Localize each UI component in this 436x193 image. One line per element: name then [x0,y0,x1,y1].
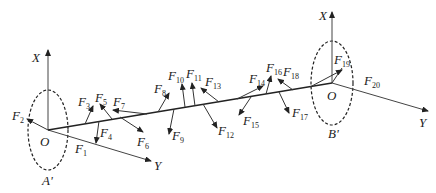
force-arrow-f17 [279,92,289,113]
force-arrow-f10 [182,84,185,107]
force-label-f5: F5 [94,90,107,107]
force-label-f2: F2 [11,108,24,125]
force-label-f15: F15 [242,113,259,130]
force-arrow-f7 [113,110,147,114]
left-y-axis-label: Y [154,158,163,173]
force-arrow-f16 [266,76,271,94]
force-label-f7: F7 [112,94,125,111]
right-y-axis [332,83,428,111]
force-label-f6: F6 [136,134,149,151]
force-label-f11: F11 [185,66,202,83]
left-x-axis-label: X [31,50,41,65]
left-section-label: A' [41,173,53,188]
shaft-line [48,83,332,130]
right-x-axis-label: X [318,8,328,23]
force-label-f13: F13 [204,74,221,91]
right-origin-label: O [327,88,337,103]
left-coordinate-frame: X Y O A' [28,50,163,188]
force-label-f4: F4 [99,125,112,142]
force-arrow-f4 [96,121,99,143]
force-label-f10: F10 [167,68,184,85]
force-label-f17: F17 [291,105,308,122]
shaft-force-diagram: X Y O A' X Y O B' [0,0,436,193]
force-arrow-f6 [120,117,143,132]
force-label-f9: F9 [171,128,184,145]
force-label-f16: F16 [265,60,282,77]
force-label-f8: F8 [153,81,166,98]
force-label-f19: F19 [333,52,350,69]
force-arrow-f11 [192,83,195,106]
right-y-axis-label: Y [419,115,428,130]
left-origin-label: O [40,134,50,149]
force-arrow-f12 [203,104,217,128]
force-label-f20: F20 [363,73,380,90]
force-label-f12: F12 [217,123,234,140]
force-arrow-f2 [27,119,48,130]
force-label-f18: F18 [282,64,299,81]
right-section-label: B' [328,126,339,141]
force-label-f1: F1 [74,141,87,158]
force-label-f14: F14 [248,71,265,88]
force-label-f3: F3 [77,94,90,111]
